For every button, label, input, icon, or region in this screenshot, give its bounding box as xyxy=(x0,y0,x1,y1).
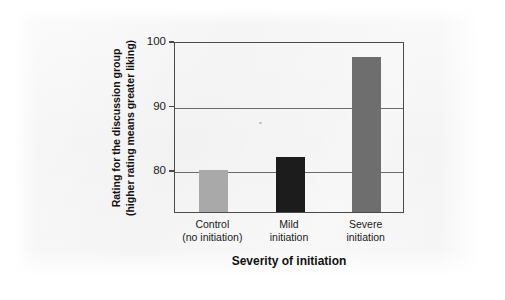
x-category-label-mild-line2: initiation xyxy=(247,231,331,244)
x-category-label-control-line1: Control xyxy=(170,218,254,231)
bar-mild-initiation xyxy=(276,157,305,212)
x-category-label-mild: Mild initiation xyxy=(247,218,331,244)
x-category-label-control: Control (no initiation) xyxy=(170,218,254,244)
screenshot-canvas: Rating for the discussion group (higher … xyxy=(0,0,505,300)
x-category-label-mild-line1: Mild xyxy=(247,218,331,231)
y-tick-label-80: 80 xyxy=(132,164,166,176)
y-tick-label-90: 90 xyxy=(132,100,166,112)
y-tick-label-100: 100 xyxy=(132,35,166,47)
x-category-label-severe-line1: Severe xyxy=(324,218,408,231)
x-category-label-severe-line2: initiation xyxy=(324,231,408,244)
scan-speck xyxy=(259,122,262,124)
bar-control xyxy=(199,170,228,212)
y-axis-title: Rating for the discussion group (higher … xyxy=(108,42,138,213)
x-axis-title: Severity of initiation xyxy=(174,254,404,268)
y-axis-title-line2: (higher rating means greater liking) xyxy=(123,30,137,226)
plot-area xyxy=(174,42,404,213)
bar-chart: Rating for the discussion group (higher … xyxy=(0,0,505,300)
y-axis-title-line1: Rating for the discussion group xyxy=(110,30,124,226)
bar-severe-initiation xyxy=(352,57,381,212)
x-category-label-severe: Severe initiation xyxy=(324,218,408,244)
x-category-label-control-line2: (no initiation) xyxy=(170,231,254,244)
